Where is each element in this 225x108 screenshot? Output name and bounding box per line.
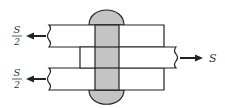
right-force-arrow bbox=[180, 55, 203, 62]
right-force-label: S bbox=[209, 52, 217, 65]
rivet-shank bbox=[95, 25, 119, 90]
svg-text:2: 2 bbox=[13, 80, 20, 90]
top-left-force-arrow bbox=[26, 33, 46, 40]
svg-text:S: S bbox=[14, 24, 21, 35]
svg-text:2: 2 bbox=[13, 37, 20, 47]
bottom-force-label: S 2 bbox=[12, 67, 22, 90]
svg-text:S: S bbox=[14, 67, 21, 78]
rivet-bottom-head bbox=[89, 90, 124, 104]
bottom-left-force-arrow bbox=[26, 76, 46, 83]
rivet-joint-diagram: S 2 S 2 S bbox=[0, 0, 225, 108]
rivet-top-head bbox=[89, 10, 124, 25]
top-force-label: S 2 bbox=[12, 24, 22, 47]
